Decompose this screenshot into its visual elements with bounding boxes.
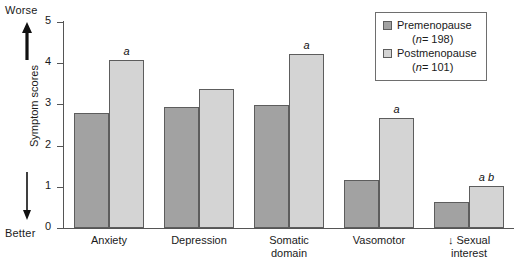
legend-entry-postmenopause: Postmenopause bbox=[383, 46, 477, 60]
bar-annotation: a b bbox=[479, 171, 494, 183]
y-axis-tick bbox=[57, 22, 63, 23]
bar-somatic-domain-postmenopause bbox=[289, 54, 324, 228]
legend-swatch-postmenopause bbox=[383, 49, 392, 58]
bar-annotation: a bbox=[123, 45, 129, 57]
bar-anxiety-premenopause bbox=[74, 113, 109, 228]
y-axis-tick-label: 2 bbox=[5, 138, 51, 150]
y-axis-tick bbox=[57, 187, 63, 188]
chart-figure: Worse Better Symptom scores 012345 aaaa … bbox=[0, 0, 521, 267]
bar-depression-postmenopause bbox=[199, 89, 234, 228]
x-axis-tick-label: Anxiety bbox=[91, 234, 127, 247]
y-axis-tick bbox=[57, 104, 63, 105]
legend-n-premenopause: (n= 198) bbox=[383, 32, 477, 46]
x-axis-tick-label: ↓ Sexual interest bbox=[443, 234, 495, 260]
y-axis-tick-label: 5 bbox=[5, 14, 51, 26]
legend-swatch-premenopause bbox=[383, 21, 392, 30]
y-axis-tick-label: 4 bbox=[5, 55, 51, 67]
bar-sexual-interest-premenopause bbox=[434, 202, 469, 228]
legend-entry-premenopause: Premenopause bbox=[383, 18, 477, 32]
legend-label-postmenopause: Postmenopause bbox=[397, 47, 477, 59]
y-axis-tick-label: 3 bbox=[5, 96, 51, 108]
bar-annotation: a bbox=[303, 39, 309, 51]
bar-vasomotor-postmenopause bbox=[379, 118, 414, 228]
legend-n-value-post: = 101 bbox=[422, 61, 450, 73]
bar-sexual-interest-postmenopause bbox=[469, 186, 504, 228]
bar-somatic-domain-premenopause bbox=[254, 105, 289, 228]
bar-depression-premenopause bbox=[164, 107, 199, 228]
y-axis-tick bbox=[57, 63, 63, 64]
x-axis-line bbox=[63, 228, 514, 229]
legend-n-value-pre: = 198 bbox=[422, 33, 450, 45]
y-axis-tick-label: 1 bbox=[5, 179, 51, 191]
legend: Premenopause (n= 198) Postmenopause (n= … bbox=[375, 12, 487, 81]
y-axis-tick bbox=[57, 146, 63, 147]
legend-label-premenopause: Premenopause bbox=[397, 19, 472, 31]
legend-n-postmenopause: (n= 101) bbox=[383, 60, 477, 74]
x-axis-tick-label: Vasomotor bbox=[353, 234, 405, 247]
x-axis-tick-label: Depression bbox=[171, 234, 227, 247]
bar-annotation: a bbox=[393, 103, 399, 115]
x-axis-tick-label: Somatic domain bbox=[269, 234, 309, 260]
bar-vasomotor-premenopause bbox=[344, 180, 379, 228]
y-axis-tick-label: 0 bbox=[5, 220, 51, 232]
bar-anxiety-postmenopause bbox=[109, 60, 144, 228]
y-axis-tick bbox=[57, 228, 63, 229]
